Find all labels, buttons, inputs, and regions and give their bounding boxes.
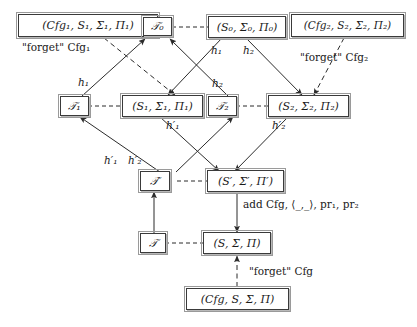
label-h2-mid: h₂ [212, 78, 223, 89]
label-h1-left: h₁ [78, 77, 89, 88]
node-s1: (S₁, Σ₁, Π₁) [122, 95, 203, 117]
node-sprime: (S′, Σ′, Π′) [207, 170, 284, 192]
node-t1: 𝒯₁ [60, 96, 89, 116]
node-s: (S, Σ, Π) [203, 232, 271, 254]
commuting-diagram: (Cfg₁, S₁, Σ₁, Π₁) 𝒯₀ (S₀, Σ₀, Π₀) (Cfg₂… [0, 0, 417, 327]
node-cfg1: (Cfg₁, S₁, Σ₁, Π₁) [18, 14, 158, 37]
node-cfg: (Cfg, S, Σ, Π) [186, 288, 289, 310]
edge-t1-t0 [82, 39, 145, 96]
node-s2: (S₂, Σ₂, Π₂) [268, 95, 349, 117]
label-forget-cfg2: "forget" Cfg₂ [300, 52, 368, 63]
label-forget-cfg: "forget" Cfg [249, 266, 313, 277]
label-forget-cfg1: "forget" Cfg₁ [22, 42, 90, 53]
edge-s0-s2 [246, 38, 302, 95]
label-add: add Cfg, ⟨_,_⟩, pr₁, pr₂ [243, 199, 359, 210]
label-h1p-upper: h′₁ [166, 120, 179, 131]
label-h2p-right: h′₂ [272, 120, 285, 131]
label-h1p-lower: h′₁ [104, 155, 117, 166]
edge-forget-cfg2 [314, 38, 344, 95]
node-tprime: 𝒯′ [140, 171, 170, 191]
label-h2p-lower: h′₂ [128, 155, 141, 166]
node-t0: 𝒯₀ [143, 17, 172, 36]
node-cfg2: (Cfg₂, S₂, Σ₂, Π₂) [291, 14, 404, 37]
edge-tprime-t1 [80, 117, 160, 172]
node-t2: 𝒯₂ [208, 96, 237, 116]
label-h2-right: h₂ [243, 45, 254, 56]
edge-tprime-t2 [176, 117, 233, 172]
node-t: 𝒯 [140, 233, 166, 253]
label-h1-right: h₁ [211, 45, 222, 56]
node-s0: (S₀, Σ₀, Π₀) [208, 16, 286, 38]
